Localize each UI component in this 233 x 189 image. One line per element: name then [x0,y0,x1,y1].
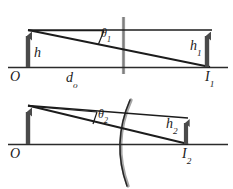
ray-diagram-figure: h θ1 h1 O do I1 θ2 h2 O I2 [0,0,233,189]
upper-image-point-label: I1 [205,70,214,87]
lower-panel [8,100,228,186]
lower-image-point-label: I2 [182,147,191,164]
lower-origin-label: O [10,147,20,161]
lower-angle-label: θ2 [98,108,108,123]
upper-object-height-label: h [34,46,41,60]
upper-object-distance-label: do [66,71,78,88]
lower-image-height-label: h2 [166,117,178,134]
upper-angle-label: θ1 [101,27,111,42]
upper-origin-label: O [10,70,20,84]
lower-angle-arm [28,106,97,112]
ray-diagram-canvas [0,0,233,189]
upper-image-height-label: h1 [190,39,202,56]
upper-ray-chief [28,30,210,67]
